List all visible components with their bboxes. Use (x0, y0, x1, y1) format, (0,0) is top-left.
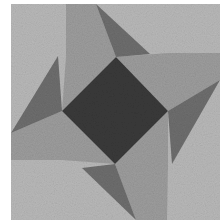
quilt-block-image (0, 0, 224, 222)
